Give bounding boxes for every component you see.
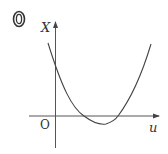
parabola-graph: X O u	[0, 0, 168, 154]
origin-label: O	[40, 118, 50, 132]
y-axis-label: X	[40, 20, 51, 35]
parabola-curve	[48, 43, 151, 124]
figure: X O u	[0, 0, 168, 154]
x-axis-label: u	[149, 120, 157, 135]
